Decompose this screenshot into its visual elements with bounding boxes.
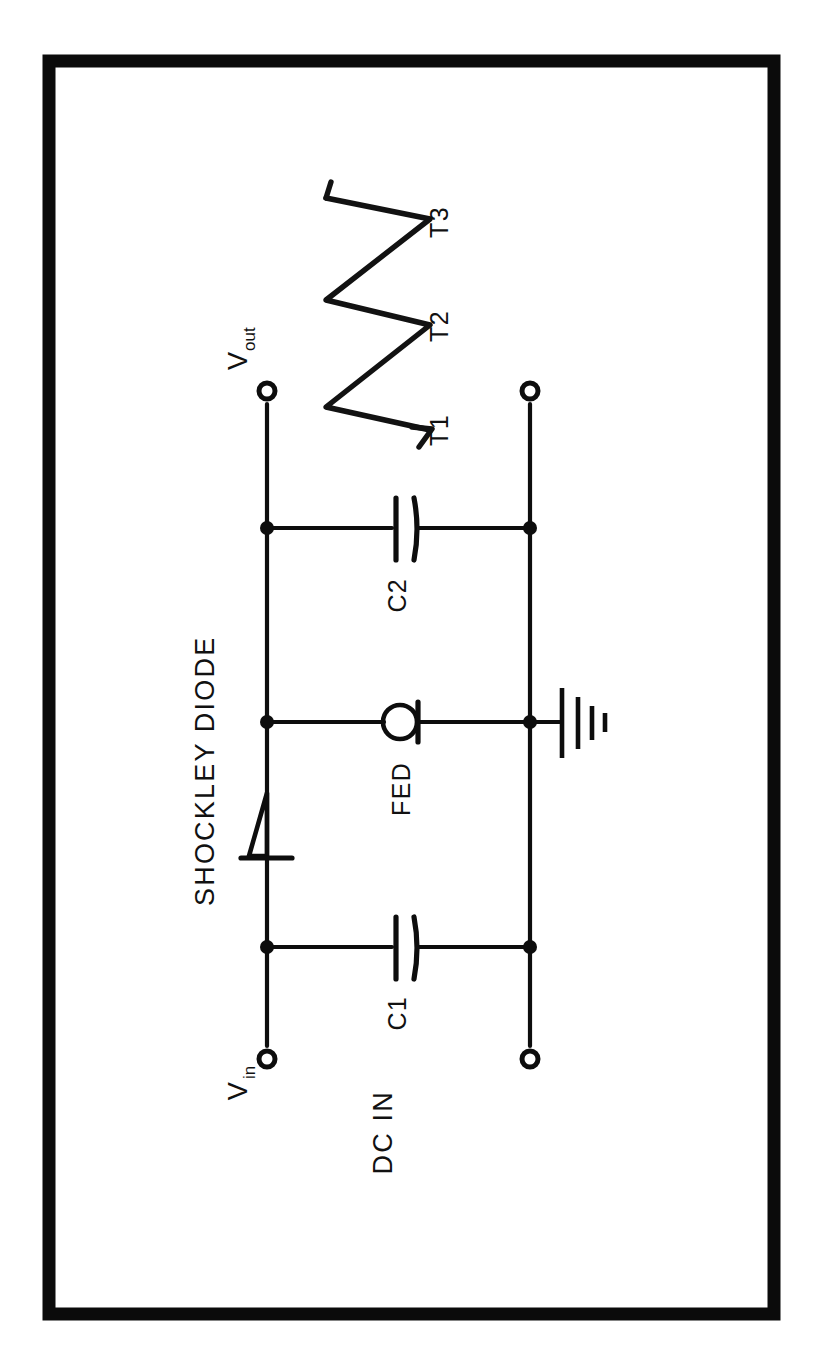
terminal-vout-return[interactable]: [522, 383, 538, 399]
figure-root: C2 FED SHOCKLEY DIODE C1 V out: [0, 0, 820, 1367]
label-dc-in: DC IN: [368, 1090, 398, 1175]
node-c2-bottom: [523, 521, 537, 535]
label-c1: C1: [383, 996, 411, 1031]
label-fed: FED: [387, 762, 415, 816]
node-c2-top: [260, 521, 274, 535]
label-vout-sub: out: [240, 327, 259, 351]
circuit-diagram: C2 FED SHOCKLEY DIODE C1 V out: [0, 0, 820, 1367]
label-vout-group: V out: [223, 327, 259, 370]
label-shockley-diode: SHOCKLEY DIODE: [190, 636, 220, 906]
terminal-vin[interactable]: [259, 1051, 275, 1067]
node-c1-top: [260, 940, 274, 954]
terminal-vout[interactable]: [259, 383, 275, 399]
terminal-vin-return[interactable]: [522, 1051, 538, 1067]
waveform-end-hook: [326, 182, 331, 198]
label-t3: T3: [425, 206, 453, 238]
figure-border: [49, 61, 774, 1314]
node-fed-top: [260, 715, 274, 729]
label-vin-sub: in: [240, 1066, 259, 1079]
label-vin-group: V in: [223, 1066, 259, 1100]
node-c1-bottom: [523, 940, 537, 954]
c1-plate-b: [414, 917, 417, 979]
label-c2: C2: [383, 578, 411, 613]
label-t1: T1: [425, 414, 453, 446]
label-vout: V: [223, 350, 253, 370]
c2-plate-b: [414, 498, 417, 560]
label-t2: T2: [425, 310, 453, 342]
output-waveform-sawtooth: [326, 198, 430, 430]
label-vin: V: [223, 1080, 253, 1100]
shockley-diode-triangle: [249, 793, 267, 856]
fed-envelope-icon: [383, 705, 417, 739]
